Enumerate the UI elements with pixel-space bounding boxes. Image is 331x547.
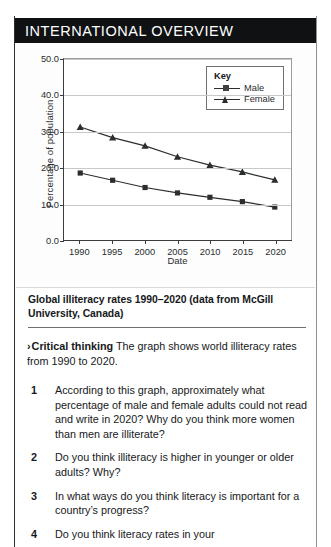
y-gridline [64, 59, 291, 60]
x-tick-mark [276, 240, 277, 244]
y-tick-label: 30.0 [41, 127, 59, 137]
critical-thinking-intro: ›Critical thinking The graph shows world… [27, 339, 307, 368]
critical-thinking-label: Critical thinking [32, 340, 114, 352]
y-tick-mark [60, 95, 64, 96]
y-tick-mark [60, 205, 64, 206]
x-tick-mark [210, 240, 211, 244]
chevron-right-icon: › [27, 340, 31, 352]
question-text: In what ways do you think literacy is im… [55, 490, 299, 517]
caption-divider [28, 327, 306, 328]
question-item: 3In what ways do you think literacy is i… [27, 489, 311, 518]
y-tick-label: 20.0 [41, 163, 59, 173]
y-tick-label: 0.0 [46, 236, 59, 246]
y-tick-mark [60, 168, 64, 169]
x-tick-mark [243, 240, 244, 244]
x-tick-mark [79, 240, 80, 244]
section-header-bar: INTERNATIONAL OVERVIEW [15, 18, 316, 43]
legend-title: Key [214, 71, 275, 81]
y-tick-label: 50.0 [41, 54, 59, 64]
x-axis: 1990199520002005201020152020 [63, 240, 292, 241]
y-gridline [64, 132, 291, 133]
data-point-male [240, 199, 245, 204]
y-tick-label: 40.0 [41, 90, 59, 100]
right-margin-rule [316, 16, 317, 547]
y-tick-mark [60, 132, 64, 133]
data-point-female [77, 123, 84, 130]
question-item: 1According to this graph, approximately … [27, 383, 311, 441]
chart-legend: Key Male Female [206, 66, 284, 110]
data-point-male [142, 185, 147, 190]
x-tick-mark [112, 240, 113, 244]
question-text: Do you think illiteracy is higher in you… [55, 451, 294, 478]
figure-caption: Global illiteracy rates 1990–2020 (data … [28, 293, 304, 322]
question-item: 4Do you think literacy rates in your [27, 527, 311, 542]
question-text: According to this graph, approximately w… [55, 384, 307, 440]
square-marker-icon [214, 83, 240, 93]
legend-label-male: Male [240, 83, 264, 93]
series-line-male [80, 173, 275, 207]
y-tick-label: 10.0 [41, 200, 59, 210]
data-point-male [110, 178, 115, 183]
question-item: 2Do you think illiteracy is higher in yo… [27, 450, 311, 479]
data-point-male [78, 170, 83, 175]
chart-plot-area: Key Male Female 0.010.020.030.040.050.0 [63, 58, 292, 240]
illiteracy-line-chart: Percentage of population Key Male Female [16, 48, 315, 288]
left-margin-rule [14, 16, 15, 547]
y-gridline [64, 95, 291, 96]
question-number: 4 [31, 527, 37, 542]
data-point-male [207, 195, 212, 200]
x-tick-mark [145, 240, 146, 244]
y-tick-mark [60, 59, 64, 60]
question-list: 1According to this graph, approximately … [27, 383, 311, 547]
x-tick-mark [178, 240, 179, 244]
y-gridline [64, 205, 291, 206]
question-number: 2 [31, 450, 37, 465]
textbook-page: INTERNATIONAL OVERVIEW Percentage of pop… [0, 6, 331, 547]
y-gridline [64, 168, 291, 169]
page-title: INTERNATIONAL OVERVIEW [15, 23, 233, 39]
question-text: Do you think literacy rates in your [55, 528, 215, 540]
x-axis-label: Date [63, 255, 292, 266]
question-number: 1 [31, 383, 37, 398]
data-point-male [175, 190, 180, 195]
legend-item-male: Male [214, 83, 275, 93]
question-number: 3 [31, 489, 37, 504]
